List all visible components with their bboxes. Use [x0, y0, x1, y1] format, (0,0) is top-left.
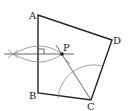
construction-arc-c: [58, 65, 103, 98]
label-b: B: [29, 90, 36, 101]
arc-tick-p: [64, 58, 70, 64]
quadrilateral-abcd: [38, 15, 112, 100]
label-p: P: [63, 42, 70, 53]
right-angle-mark: [38, 49, 44, 54]
label-d: D: [113, 35, 121, 46]
quadrilateral-diagram: A B C D P: [0, 0, 132, 111]
label-c: C: [87, 101, 95, 111]
label-a: A: [28, 10, 37, 21]
